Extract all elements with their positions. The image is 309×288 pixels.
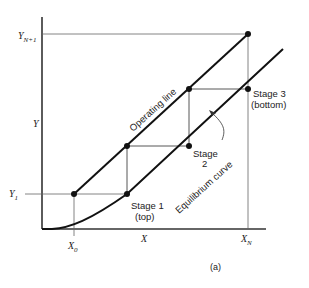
y-axis-label: Y [33, 118, 40, 129]
point-stage-1 [124, 191, 130, 197]
x-tick-xn: XN [240, 233, 252, 247]
point-op-1 [71, 191, 77, 197]
stage-1-label: Stage 1 [131, 200, 164, 211]
mccabe-thiele-diagram: YN+1 Y Y1 X0 X XN Operating line Equilib… [0, 0, 309, 288]
x-axis-label: X [140, 233, 148, 244]
figure-caption: (a) [210, 262, 221, 272]
equilibrium-pointer-arrow [212, 113, 224, 140]
stage-3-sub: (bottom) [251, 99, 286, 110]
y-tick-yn1: YN+1 [18, 30, 36, 44]
x-tick-x0: X0 [67, 240, 78, 254]
y-tick-y1: Y1 [9, 188, 18, 202]
point-op-3 [186, 86, 192, 92]
point-stage-2 [186, 143, 192, 149]
point-op-2 [124, 143, 130, 149]
stage-2-sub: 2 [202, 158, 207, 169]
point-top [245, 31, 251, 37]
stage-1-sub: (top) [135, 211, 155, 222]
point-stage-3 [245, 86, 251, 92]
operating-line-label: Operating line [127, 86, 178, 134]
stage-3-label: Stage 3 [253, 88, 286, 99]
